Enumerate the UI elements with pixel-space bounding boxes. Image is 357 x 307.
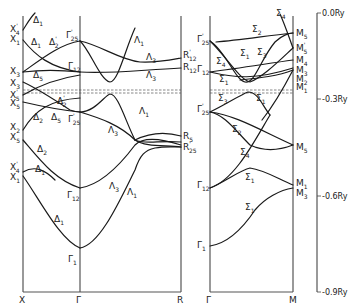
band-lambda3-mid [80, 112, 181, 142]
branch-label-right: Σ3 [257, 47, 267, 59]
branch-label: Λ1 [134, 35, 144, 47]
gamma-point-label-right: Γ'25 [197, 32, 209, 46]
branch-label-right: Σ1 [245, 202, 255, 214]
r-point-label: R'25 [183, 140, 197, 154]
energy-tick-label: 0.0Ry [322, 9, 345, 18]
band-sigma-m5b [210, 112, 293, 150]
branch-label: Δ2 [33, 112, 43, 124]
branch-label-right: Σ4 [240, 147, 250, 159]
branch-label-right: Σ3 [218, 93, 228, 105]
m-point-label: M'5 [296, 41, 307, 55]
x-point-label: X3 [10, 78, 20, 90]
r-point-label: R'12 [183, 48, 197, 62]
band-lambda1-dip [80, 28, 135, 82]
band-lambda3-top [80, 41, 181, 62]
branch-label-right: Σ2 [232, 124, 242, 136]
branch-label: Δ1 [31, 37, 41, 49]
band-x5-delta2 [23, 140, 80, 188]
gamma-point-label-right: Γ1 [197, 240, 206, 252]
branch-label: Δ'2 [57, 94, 67, 108]
branch-label-right: Σ1 [240, 48, 250, 60]
band-lambda1-low [80, 147, 181, 248]
kpoint-label: Γ [206, 295, 211, 305]
band-structure-diagram: 0.0Ry -0.3Ry -0.6Ry -0.9Ry X Γ R Γ M X'4… [0, 0, 357, 307]
branch-label-right: Σ2 [252, 24, 262, 36]
branch-label: Δ5 [51, 112, 61, 124]
gamma-point-label-right: Γ12 [197, 64, 210, 76]
m-point-label: M5 [296, 28, 308, 40]
branch-label: Λ1 [139, 106, 149, 118]
energy-tick-label: -0.6Ry [322, 192, 348, 201]
energy-axis: 0.0Ry -0.3Ry -0.6Ry -0.9Ry [317, 9, 348, 297]
energy-tick-label: -0.3Ry [322, 95, 348, 104]
m-point-label: M5 [296, 142, 308, 154]
branch-label-right: Σ1 [256, 93, 266, 105]
right-panel [210, 14, 293, 292]
band-x5p-rise [23, 75, 80, 95]
kpoint-label: M [289, 295, 297, 305]
band-lambda3-r12 [80, 68, 181, 73]
gamma-point-label: Γ12 [67, 190, 80, 202]
branch-label: Δ1 [35, 164, 45, 176]
band-sigma1-m1 [262, 70, 293, 120]
branch-label: Δ'2 [49, 35, 59, 49]
branch-label: Λ3 [109, 181, 119, 193]
branch-label: Δ1 [33, 15, 43, 27]
gamma-point-label: Γ'25 [66, 28, 78, 42]
branch-label: Λ3 [146, 70, 156, 82]
x-point-label: X3 [10, 66, 20, 78]
symmetry-labels: X'4X1X3X3X'5X5X2X5X'4X1Γ'25Γ12Γ'25Γ12Γ1R… [10, 8, 308, 266]
branch-label-right: Σ4 [216, 56, 226, 68]
gamma-point-label-right: Γ12 [197, 180, 210, 192]
gamma-point-label: Γ'25 [68, 112, 80, 126]
branch-label-right: Σ4 [276, 8, 286, 20]
kpoint-label: X [19, 295, 25, 305]
kpoint-label: Γ [76, 295, 81, 305]
branch-label: Δ5 [33, 70, 43, 82]
band-sigma1-gamma1 [210, 188, 293, 246]
gamma-point-label: Γ1 [68, 254, 77, 266]
kpoint-label: R [177, 295, 183, 305]
gamma-point-label-right: Γ'25 [197, 102, 209, 116]
branch-label: Δ2 [37, 144, 47, 156]
branch-label-right: Σ1 [245, 172, 255, 184]
r-point-label: R12 [183, 62, 197, 74]
band-delta1-low [23, 176, 80, 248]
band-r5-a [135, 133, 181, 140]
branch-label: Λ1 [127, 187, 137, 199]
energy-tick-label: -0.9Ry [322, 288, 348, 297]
